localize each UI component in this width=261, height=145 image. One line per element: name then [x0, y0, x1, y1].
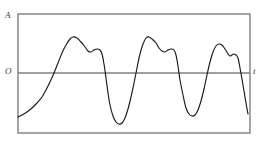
vertical-axis-label: A: [5, 11, 11, 20]
waveform-figure: A O t: [0, 0, 261, 145]
horizontal-axis-label: t: [253, 67, 256, 76]
origin-label: O: [5, 67, 12, 76]
waveform-plot-canvas: [0, 0, 261, 145]
